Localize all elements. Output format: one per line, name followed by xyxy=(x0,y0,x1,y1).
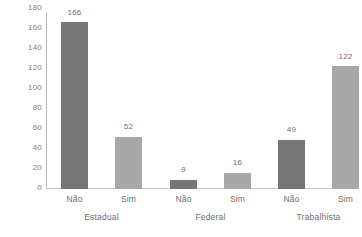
x-tick-label: Não xyxy=(61,194,88,204)
y-tick-label: 120 xyxy=(0,64,42,72)
bar-group-trabalhista-nao[interactable]: 49 xyxy=(278,8,305,189)
bar-rect[interactable] xyxy=(332,66,359,189)
bar-group-estadual-nao[interactable]: 166 xyxy=(61,8,88,189)
bar-group-trabalhista-sim[interactable]: 122 xyxy=(332,8,359,189)
plot-area: 166 52 9 16 49 122 xyxy=(47,8,358,189)
y-tick-label: 100 xyxy=(0,84,42,92)
y-tick-label: 80 xyxy=(0,104,42,112)
x-group-label-estadual: Estadual xyxy=(47,212,156,222)
x-tick-label: Não xyxy=(278,194,305,204)
bar-rect[interactable] xyxy=(61,22,88,189)
x-group-label-federal: Federal xyxy=(156,212,265,222)
y-tick-label: 20 xyxy=(0,164,42,172)
bar-group-federal-sim[interactable]: 16 xyxy=(224,8,251,189)
y-tick-label: 0 xyxy=(0,184,42,192)
bar-value-label: 16 xyxy=(233,159,242,167)
bar-chart: 180 160 140 120 100 80 60 40 20 0 166 52… xyxy=(0,0,362,237)
bar-value-label: 9 xyxy=(181,166,186,174)
bar-rect[interactable] xyxy=(278,140,305,189)
y-tick-label: 160 xyxy=(0,24,42,32)
y-tick-label: 180 xyxy=(0,4,42,12)
bar-rect[interactable] xyxy=(224,173,251,189)
x-tick-label: Sim xyxy=(224,194,251,204)
y-tick-label: 60 xyxy=(0,124,42,132)
bar-rect[interactable] xyxy=(115,137,142,189)
bar-rect[interactable] xyxy=(170,180,197,189)
bar-value-label: 49 xyxy=(287,126,296,134)
bar-group-estadual-sim[interactable]: 52 xyxy=(115,8,142,189)
bar-value-label: 166 xyxy=(68,9,82,17)
x-axis-group-labels: Estadual Federal Trabalhista xyxy=(47,212,358,224)
bar-value-label: 52 xyxy=(124,123,133,131)
x-axis-category-labels: Não Sim Não Sim Não Sim xyxy=(47,194,358,206)
y-tick-label: 40 xyxy=(0,144,42,152)
y-axis: 180 160 140 120 100 80 60 40 20 0 xyxy=(0,8,42,189)
bar-group-federal-nao[interactable]: 9 xyxy=(170,8,197,189)
y-tick-label: 140 xyxy=(0,44,42,52)
x-tick-label: Sim xyxy=(332,194,359,204)
bar-value-label: 122 xyxy=(339,53,353,61)
x-tick-label: Sim xyxy=(115,194,142,204)
x-group-label-trabalhista: Trabalhista xyxy=(264,212,362,222)
x-tick-label: Não xyxy=(170,194,197,204)
